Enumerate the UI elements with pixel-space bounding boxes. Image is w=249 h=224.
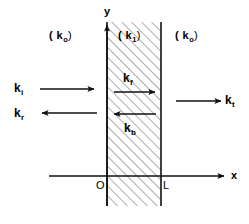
region-slab-k: ( k — [118, 29, 132, 41]
region-right-sub: o — [189, 35, 194, 44]
incident-sub: i — [21, 88, 23, 97]
transmitted-k: k — [225, 93, 232, 107]
reflected-vector-label: kr — [14, 107, 24, 119]
forward-sub: f — [130, 78, 133, 87]
region-right-k: ( k — [175, 29, 189, 41]
region-right-close: ) — [194, 29, 198, 41]
transmitted-sub: t — [232, 100, 235, 109]
region-left-k: ( k — [49, 29, 63, 41]
reflected-k: k — [14, 106, 21, 120]
transmitted-vector-label: kt — [225, 94, 234, 106]
reflected-sub: r — [21, 113, 24, 122]
forward-k: k — [123, 71, 130, 85]
incident-vector-label: ki — [14, 82, 23, 94]
forward-vector-label: kf — [123, 72, 132, 84]
backward-k: k — [124, 121, 131, 135]
region-slab-close: ) — [137, 29, 141, 41]
region-label-left-medium: ( ko) — [49, 30, 72, 41]
region-label-slab-medium: ( k1) — [118, 30, 141, 41]
wave-vector-slab-diagram: y x O L ( ko) ( k1) ( ko) ki kr kf kb kt — [0, 0, 249, 224]
region-left-close: ) — [68, 29, 72, 41]
region-slab-sub: 1 — [132, 35, 137, 44]
tick-label-thickness: L — [163, 180, 169, 191]
y-axis-label: y — [104, 6, 110, 17]
tick-label-origin: O — [96, 180, 105, 191]
x-axis-label: x — [231, 170, 237, 181]
region-left-sub: o — [63, 35, 68, 44]
backward-sub: b — [131, 128, 136, 137]
backward-vector-label: kb — [124, 122, 136, 134]
incident-k: k — [14, 81, 21, 95]
region-label-right-medium: ( ko) — [175, 30, 198, 41]
